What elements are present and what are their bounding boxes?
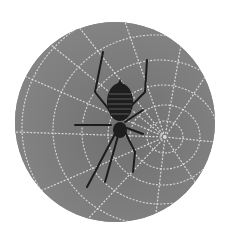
spider-web-illustration [15,22,215,222]
spider-web-photo [15,22,215,222]
